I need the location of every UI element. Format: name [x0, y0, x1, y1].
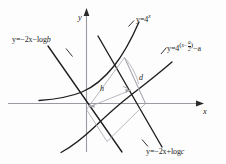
x-axis-label: x	[203, 107, 207, 116]
leader-curve-exp-shifted	[161, 48, 167, 55]
axes-group	[8, 8, 204, 152]
curve-exp-shifted	[61, 62, 172, 153]
height-segment-h	[89, 90, 131, 107]
figure-canvas	[0, 0, 226, 164]
equation-line-upper: y=−2x−logb	[12, 36, 51, 44]
equation-curve-exp-base: y=4x	[136, 14, 151, 24]
equation-shifted-fraction: a2	[188, 40, 191, 52]
leader-line-upper	[66, 49, 73, 57]
curve-exp-base	[39, 22, 139, 101]
equation-line-lower: y=−2x+logc	[146, 148, 184, 156]
equation-shifted-lead: y=4	[167, 44, 179, 53]
equation-shifted-tail: −a	[193, 44, 201, 53]
equation-curve-exp-shifted: y=4(x−a2)−a	[167, 42, 201, 55]
equation-line-upper-var: b	[47, 35, 51, 44]
equation-line-lower-var: c	[181, 147, 184, 156]
equation-shifted-frac-denominator: 2	[188, 47, 191, 52]
parallelogram-guide	[87, 58, 146, 142]
label-height-h: h	[100, 85, 104, 93]
y-axis-label: y	[78, 13, 82, 22]
equation-line-lower-text: y=−2x+log	[146, 147, 181, 156]
leader-curve-exp-base	[129, 21, 135, 27]
math-figure: y x y=−2x−logb y=4x y=4(x−a2)−a y=−2x+lo…	[0, 0, 226, 164]
equation-curve-exp-base-exponent: x	[148, 13, 150, 19]
y-axis-arrowhead	[84, 8, 90, 16]
label-diagonal-d: d	[139, 74, 143, 82]
equation-line-upper-text: y=−2x−log	[12, 35, 47, 44]
leader-line-lower	[142, 140, 148, 147]
equation-curve-exp-base-text: y=4	[136, 15, 148, 24]
